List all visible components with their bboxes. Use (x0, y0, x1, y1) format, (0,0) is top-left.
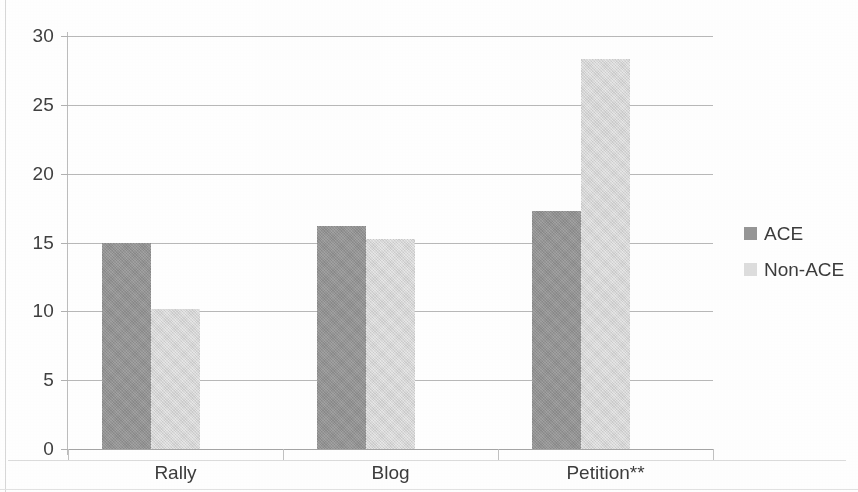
legend-label: ACE (764, 224, 803, 243)
legend-item-ace[interactable]: ACE (744, 215, 856, 251)
y-axis-tick (61, 174, 68, 175)
y-axis-tick-label: 10 (14, 301, 54, 320)
legend-item-non-ace[interactable]: Non-ACE (744, 251, 856, 287)
category-label-blog: Blog (283, 462, 498, 484)
y-axis-tick (61, 36, 68, 37)
y-axis-tick-label: 5 (14, 370, 54, 389)
bar-ace-blog (317, 226, 366, 449)
y-axis-tick (61, 380, 68, 381)
bar-non-ace-petition- (581, 59, 630, 449)
legend-swatch-icon (744, 263, 757, 276)
category-axis-line (8, 460, 846, 461)
category-axis-end-tick (713, 449, 714, 460)
page-bottom-line (0, 489, 858, 490)
page-edge-line (5, 0, 6, 492)
y-axis-tick-label: 15 (14, 233, 54, 252)
category-axis-end-tick (68, 449, 69, 460)
y-axis-tick (61, 105, 68, 106)
category-separator-tick (498, 449, 499, 460)
category-label-petition-: Petition** (498, 462, 713, 484)
category-label-rally: Rally (68, 462, 283, 484)
y-axis-tick (61, 449, 68, 450)
bar-ace-petition- (532, 211, 581, 449)
bar-ace-rally (102, 243, 151, 450)
y-axis-labels: 051015202530 (8, 0, 54, 492)
y-axis-tick (61, 243, 68, 244)
legend-label: Non-ACE (764, 260, 844, 279)
bar-non-ace-rally (151, 309, 200, 449)
y-axis-tick-label: 20 (14, 164, 54, 183)
y-axis-tick-label: 25 (14, 95, 54, 114)
plot-area (68, 36, 713, 449)
bar-non-ace-blog (366, 239, 415, 449)
gridline (68, 36, 713, 37)
y-axis-tick-label: 0 (14, 439, 54, 458)
category-separator-tick (283, 449, 284, 460)
y-axis-tick-label: 30 (14, 26, 54, 45)
chart-legend: ACENon-ACE (744, 215, 856, 287)
gridline (68, 449, 713, 450)
bar-chart: 051015202530 ACENon-ACE RallyBlogPetitio… (0, 0, 858, 492)
legend-swatch-icon (744, 227, 757, 240)
y-axis-tick (61, 311, 68, 312)
